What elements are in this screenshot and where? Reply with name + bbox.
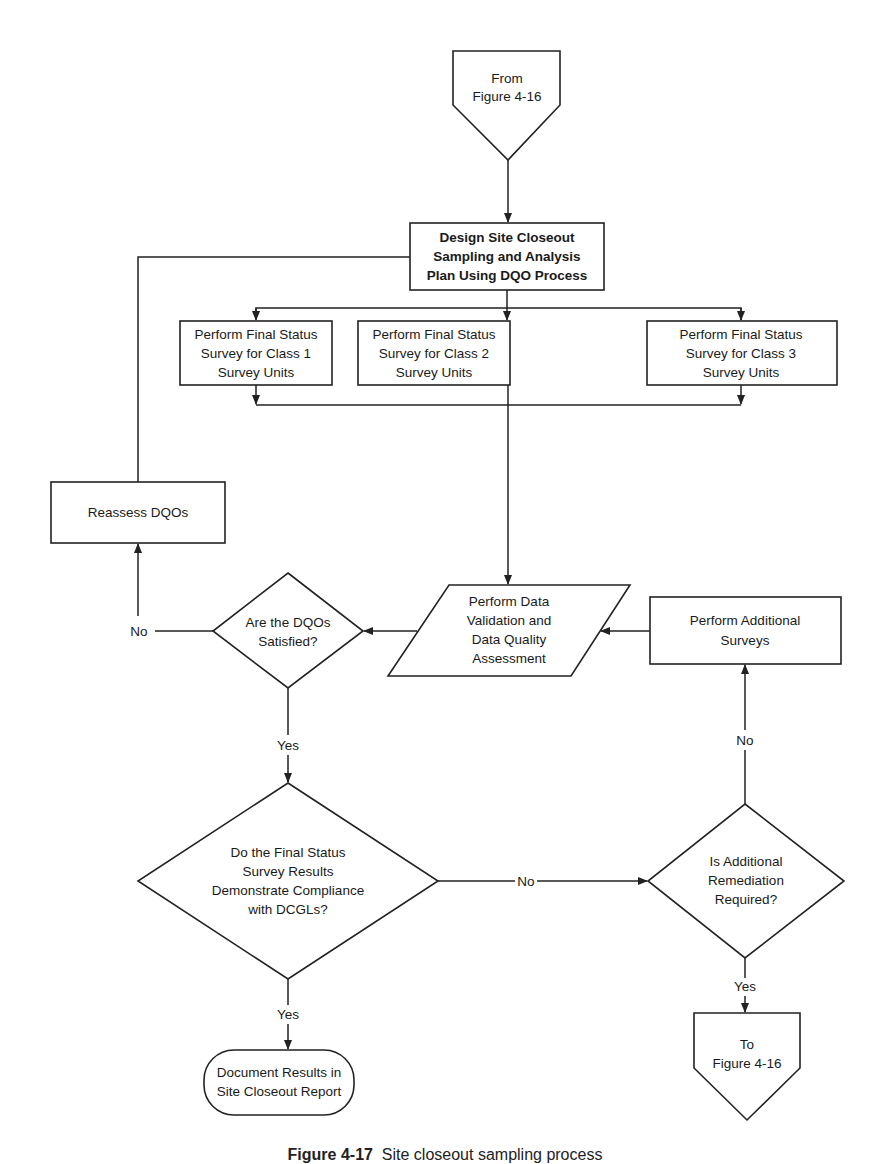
node-additional-surveys: Perform Additional Surveys	[650, 597, 841, 664]
validation-line-4: Assessment	[472, 651, 546, 666]
label-dqo-yes: Yes	[277, 738, 299, 753]
figure-caption: Figure 4-17 Site closeout sampling proce…	[0, 1146, 890, 1164]
compliance-line-3: Demonstrate Compliance	[212, 883, 364, 898]
class2-line-2: Survey for Class 2	[379, 346, 489, 361]
remediation-line-2: Remediation	[708, 873, 784, 888]
validation-line-2: Validation and	[467, 613, 552, 628]
dqo-decision-line-2: Satisfied?	[258, 634, 317, 649]
node-reassess-dqos: Reassess DQOs	[51, 482, 225, 543]
design-plan-line-3: Plan Using DQO Process	[427, 268, 588, 283]
class3-line-3: Survey Units	[703, 365, 780, 380]
label-compliance-yes: Yes	[277, 1007, 299, 1022]
class3-line-1: Perform Final Status	[679, 327, 802, 342]
remediation-line-1: Is Additional	[710, 854, 783, 869]
to-connector-line-1: To	[740, 1037, 754, 1052]
figure-number: Figure 4-17	[288, 1146, 373, 1163]
reassess-line-1: Reassess DQOs	[88, 505, 189, 520]
class1-line-3: Survey Units	[218, 365, 295, 380]
validation-line-3: Data Quality	[472, 632, 547, 647]
label-remediation-no: No	[736, 733, 753, 748]
node-document-results: Document Results in Site Closeout Report	[204, 1050, 354, 1115]
class2-line-1: Perform Final Status	[372, 327, 495, 342]
from-connector-line-2: Figure 4-16	[472, 89, 541, 104]
design-plan-line-2: Sampling and Analysis	[433, 249, 580, 264]
node-class1-survey: Perform Final Status Survey for Class 1 …	[180, 321, 332, 385]
node-from-connector: From Figure 4-16	[453, 51, 560, 160]
design-plan-line-1: Design Site Closeout	[439, 230, 575, 245]
edge-labels: No Yes No Yes No Yes	[130, 624, 756, 1022]
node-to-connector: To Figure 4-16	[694, 1013, 800, 1120]
class1-line-1: Perform Final Status	[194, 327, 317, 342]
compliance-line-2: Survey Results	[243, 864, 334, 879]
label-remediation-yes: Yes	[734, 979, 756, 994]
node-design-plan: Design Site Closeout Sampling and Analys…	[410, 223, 604, 290]
class1-line-2: Survey for Class 1	[201, 346, 311, 361]
document-line-2: Site Closeout Report	[217, 1084, 342, 1099]
node-class3-survey: Perform Final Status Survey for Class 3 …	[647, 321, 837, 385]
edge-branch-class1	[256, 308, 741, 320]
node-remediation-decision: Is Additional Remediation Required?	[648, 804, 844, 958]
node-dqo-decision: Are the DQOs Satisfied?	[213, 573, 363, 688]
additional-surveys-line-1: Perform Additional	[690, 613, 800, 628]
document-line-1: Document Results in	[217, 1065, 342, 1080]
remediation-line-3: Required?	[715, 892, 777, 907]
node-class2-survey: Perform Final Status Survey for Class 2 …	[358, 321, 510, 385]
additional-surveys-line-2: Surveys	[721, 633, 770, 648]
node-compliance-decision: Do the Final Status Survey Results Demon…	[138, 783, 438, 979]
from-connector-line-1: From	[491, 71, 523, 86]
to-connector-line-2: Figure 4-16	[712, 1056, 781, 1071]
validation-line-1: Perform Data	[469, 594, 550, 609]
class2-line-3: Survey Units	[396, 365, 473, 380]
compliance-line-4: with DCGLs?	[247, 902, 328, 917]
label-compliance-no: No	[517, 874, 534, 889]
dqo-decision-line-1: Are the DQOs	[246, 615, 331, 630]
label-dqo-no: No	[130, 624, 147, 639]
figure-caption-text: Site closeout sampling process	[382, 1146, 603, 1163]
compliance-line-1: Do the Final Status	[231, 845, 346, 860]
node-data-validation: Perform Data Validation and Data Quality…	[388, 585, 630, 676]
class3-line-2: Survey for Class 3	[686, 346, 796, 361]
